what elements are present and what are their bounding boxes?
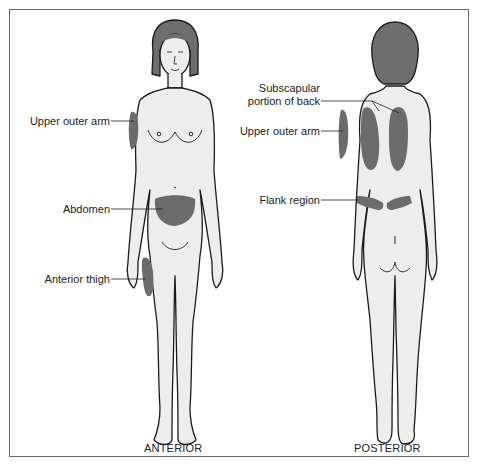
- label-anterior-upper-outer-arm: Upper outer arm: [22, 115, 110, 127]
- figures-svg: [0, 0, 479, 466]
- label-anterior-thigh: Anterior thigh: [22, 273, 110, 285]
- posterior-figure: [353, 22, 437, 444]
- caption-anterior: ANTERIOR: [144, 442, 202, 454]
- label-abdomen: Abdomen: [40, 203, 110, 215]
- site-posterior-upper-outer-arm: [339, 110, 349, 159]
- posterior-hair: [372, 22, 419, 84]
- label-subscapular-line1: Subscapular: [222, 82, 320, 94]
- label-subscapular-line2: portion of back: [222, 95, 320, 107]
- caption-posterior: POSTERIOR: [354, 442, 421, 454]
- label-flank-region: Flank region: [222, 194, 320, 206]
- anterior-figure: [127, 20, 223, 445]
- label-posterior-upper-outer-arm: Upper outer arm: [222, 125, 320, 137]
